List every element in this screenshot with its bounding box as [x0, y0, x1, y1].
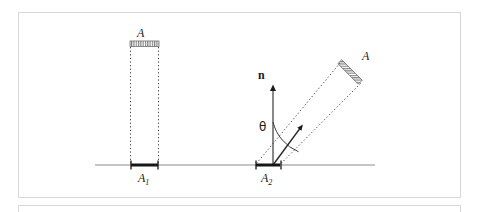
figure-canvas: A A n θ A1 A2 — [0, 0, 478, 212]
area-bar-top — [130, 41, 159, 47]
label-projected-area-1: A1 — [138, 172, 149, 187]
label-angle-theta: θ — [259, 121, 266, 133]
area-bar-tilted — [338, 60, 362, 84]
label-a2-subscript: 2 — [268, 178, 272, 187]
label-a1-subscript: 1 — [145, 178, 149, 187]
projected-area-diagram — [0, 0, 478, 212]
label-area-tilted: A — [362, 50, 369, 62]
projection-line-right-1 — [257, 63, 341, 164]
label-projected-area-2: A2 — [261, 172, 272, 187]
projection-line-right-2 — [281, 82, 362, 164]
label-area-top: A — [137, 27, 144, 39]
label-normal-vector: n — [258, 69, 265, 81]
